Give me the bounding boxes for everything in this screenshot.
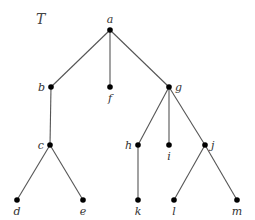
node-d xyxy=(14,197,20,203)
node-label-m: m xyxy=(232,205,242,218)
node-label-h: h xyxy=(125,139,132,152)
node-a xyxy=(107,27,113,33)
node-label-f: f xyxy=(107,92,114,105)
node-label-j: j xyxy=(208,139,215,152)
edge-a-g xyxy=(110,30,169,87)
node-label-d: d xyxy=(13,205,20,218)
node-k xyxy=(135,197,141,203)
node-c xyxy=(47,142,53,148)
node-label-i: i xyxy=(167,150,171,163)
node-label-k: k xyxy=(135,205,142,218)
edge-j-l xyxy=(174,145,205,200)
node-label-l: l xyxy=(172,205,176,218)
diagram-title: T xyxy=(36,11,47,27)
node-label-g: g xyxy=(175,81,182,94)
tree-nodes xyxy=(14,27,240,203)
edge-g-j xyxy=(169,87,205,145)
node-l xyxy=(171,197,177,203)
node-m xyxy=(234,197,240,203)
node-label-a: a xyxy=(107,13,114,26)
edge-c-d xyxy=(17,145,50,200)
node-label-c: c xyxy=(38,139,44,152)
edge-a-b xyxy=(51,30,110,87)
tree-edges xyxy=(17,30,237,200)
node-label-b: b xyxy=(38,81,45,94)
tree-diagram: T abfgchijdeklm xyxy=(0,0,255,220)
node-e xyxy=(80,197,86,203)
edge-g-h xyxy=(138,87,169,145)
edge-j-m xyxy=(205,145,237,200)
node-b xyxy=(48,84,54,90)
node-h xyxy=(135,142,141,148)
edge-b-c xyxy=(50,87,51,145)
tree-labels: abfgchijdeklm xyxy=(13,13,242,218)
node-label-e: e xyxy=(80,205,87,218)
node-j xyxy=(202,142,208,148)
node-f xyxy=(107,84,113,90)
node-g xyxy=(166,84,172,90)
edge-c-e xyxy=(50,145,83,200)
node-i xyxy=(166,142,172,148)
